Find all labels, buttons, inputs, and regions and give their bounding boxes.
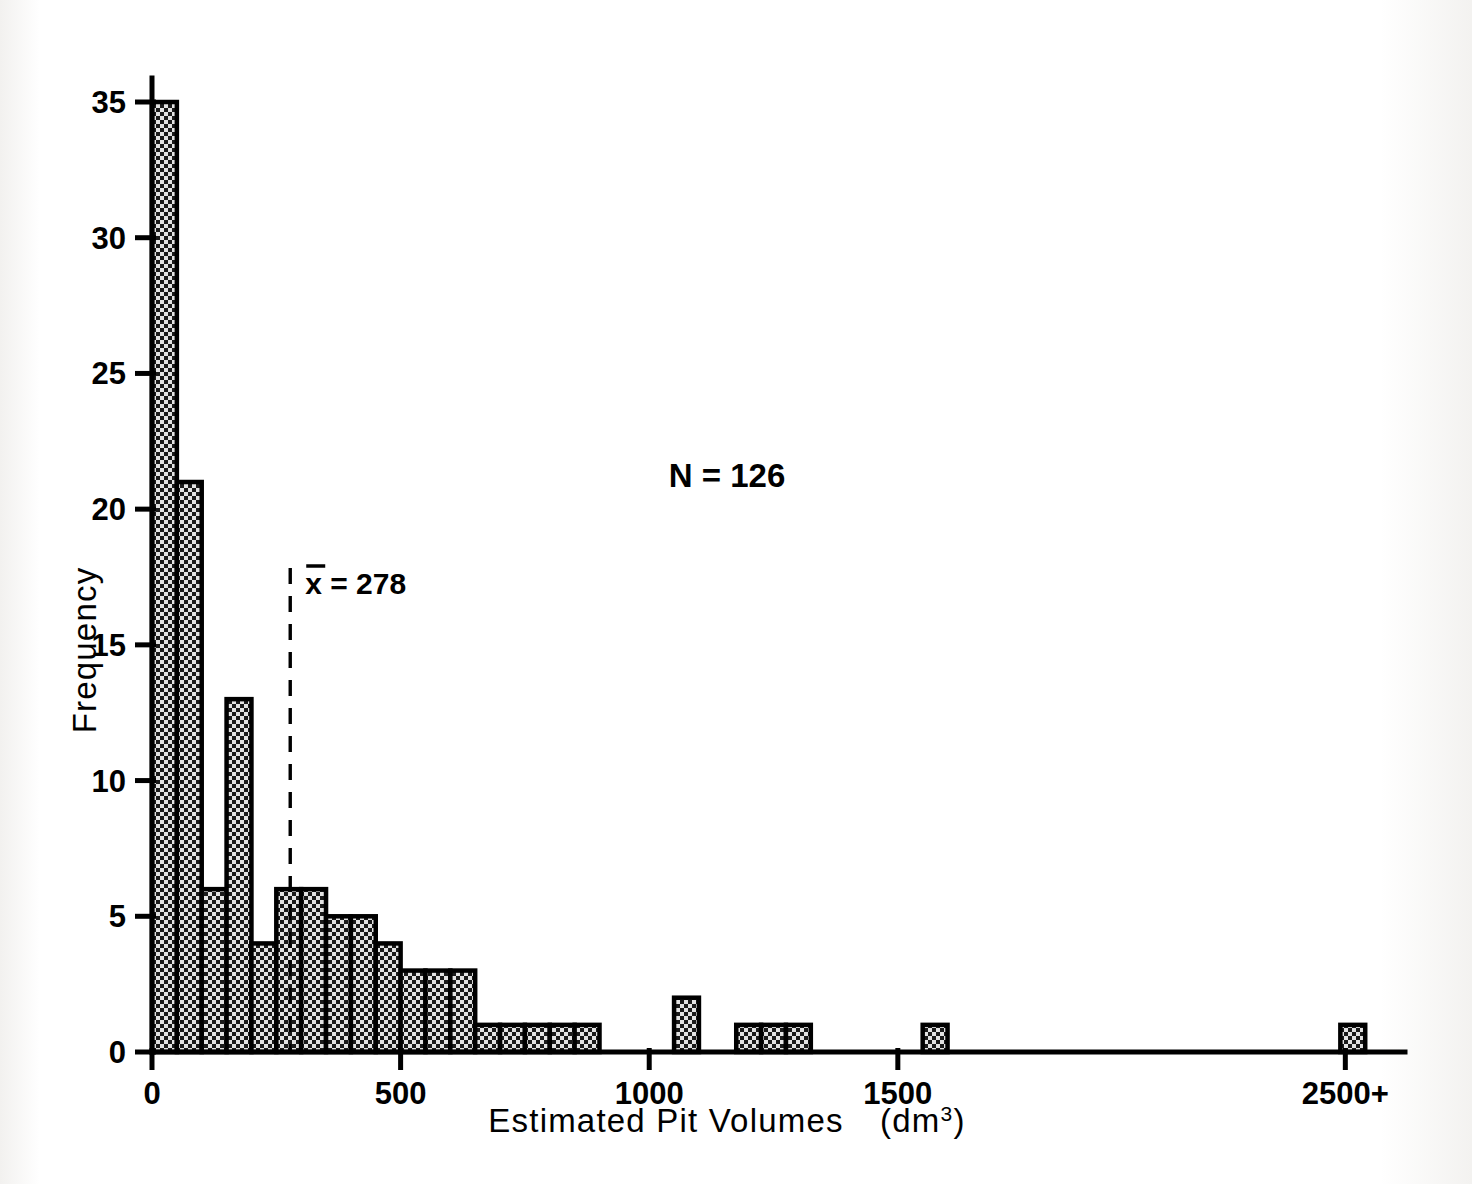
histogram-bar bbox=[177, 482, 202, 1052]
histogram-bar bbox=[376, 943, 401, 1052]
y-axis-title: Frequency bbox=[66, 567, 103, 734]
histogram-bar bbox=[326, 916, 351, 1052]
figure-container: 05101520253035 0500100015002500+ x = 278… bbox=[0, 0, 1472, 1184]
x-axis-title: Estimated Pit Volumes (dm3) bbox=[488, 1102, 965, 1139]
y-axis-tick-label: 25 bbox=[92, 356, 126, 391]
histogram-bar bbox=[786, 1025, 811, 1052]
histogram-bar bbox=[761, 1025, 786, 1052]
y-axis-tick-label: 5 bbox=[109, 899, 126, 934]
x-axis-title-superscript: 3 bbox=[941, 1102, 954, 1125]
x-axis-tick-label: 500 bbox=[375, 1076, 427, 1111]
histogram-bar bbox=[202, 889, 227, 1052]
y-axis-tick-label: 35 bbox=[92, 85, 126, 120]
histogram-bar bbox=[923, 1025, 948, 1052]
histogram-bar bbox=[351, 916, 376, 1052]
histogram-bar bbox=[1340, 1025, 1365, 1052]
histogram-bar bbox=[251, 943, 276, 1052]
histogram-bar bbox=[674, 998, 699, 1052]
histogram-bar bbox=[575, 1025, 600, 1052]
histogram-bar bbox=[475, 1025, 500, 1052]
histogram-bar bbox=[401, 971, 426, 1052]
x-axis-tick-label: 0 bbox=[143, 1076, 160, 1111]
sample-size-annotation: N = 126 bbox=[669, 457, 786, 494]
histogram-chart: 05101520253035 0500100015002500+ x = 278… bbox=[0, 0, 1472, 1184]
histogram-bar bbox=[227, 699, 252, 1052]
y-axis-tick-label: 0 bbox=[109, 1035, 126, 1070]
x-axis-title-units: (dm bbox=[880, 1102, 940, 1139]
y-axis-tick-label: 30 bbox=[92, 221, 126, 256]
axes-layer bbox=[152, 78, 1405, 1052]
mean-annotation-label: x = 278 bbox=[305, 567, 406, 600]
histogram-bar bbox=[736, 1025, 761, 1052]
histogram-bar bbox=[425, 971, 450, 1052]
x-axis-title-main: Estimated Pit Volumes bbox=[488, 1102, 843, 1139]
y-axis-tick-label: 10 bbox=[92, 764, 126, 799]
y-axis-tick-label: 20 bbox=[92, 492, 126, 527]
histogram-bar bbox=[500, 1025, 525, 1052]
histogram-bar bbox=[525, 1025, 550, 1052]
histogram-bar bbox=[152, 102, 177, 1052]
histogram-bar bbox=[550, 1025, 575, 1052]
histogram-bar bbox=[450, 971, 475, 1052]
x-axis-tick-label: 2500+ bbox=[1302, 1076, 1389, 1111]
histogram-bar bbox=[301, 889, 326, 1052]
x-axis-title-paren: ) bbox=[953, 1102, 965, 1139]
